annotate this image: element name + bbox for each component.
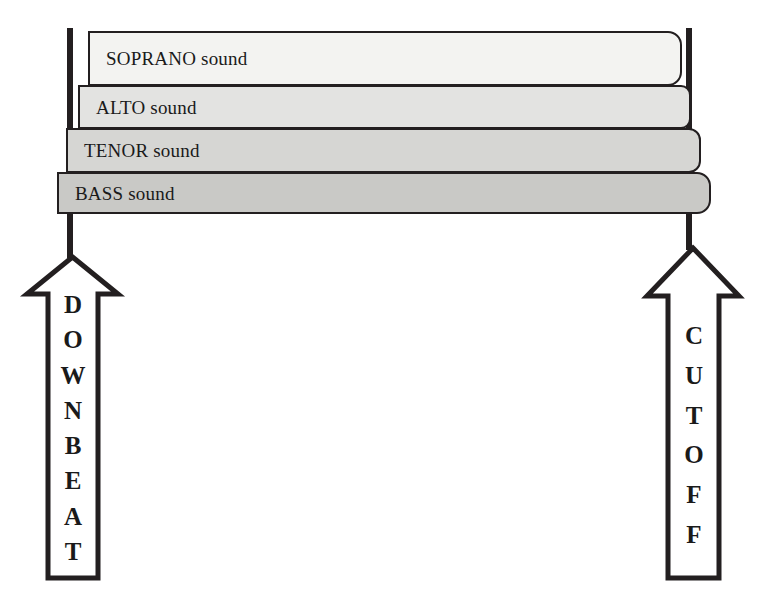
voice-bar-tenor: TENOR sound bbox=[66, 128, 701, 173]
voice-label-tenor: TENOR sound bbox=[68, 141, 200, 160]
cutoff-arrow bbox=[647, 248, 739, 578]
voice-bar-alto: ALTO sound bbox=[78, 85, 691, 129]
voice-label-soprano: SOPRANO sound bbox=[90, 49, 247, 68]
voice-bar-soprano: SOPRANO sound bbox=[88, 31, 682, 86]
sound-timing-diagram: SOPRANO sound ALTO sound TENOR sound BAS… bbox=[0, 0, 762, 609]
voice-label-bass: BASS sound bbox=[59, 184, 175, 203]
downbeat-arrow bbox=[27, 257, 118, 578]
voice-label-alto: ALTO sound bbox=[80, 98, 197, 117]
voice-bar-bass: BASS sound bbox=[57, 172, 711, 214]
